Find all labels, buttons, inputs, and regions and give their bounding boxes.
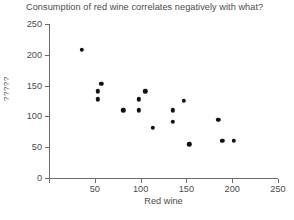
data-point (181, 99, 185, 103)
x-axis-label: Red wine (49, 196, 278, 206)
y-tick-mark (45, 116, 49, 117)
y-tick-label: 150 (27, 81, 42, 91)
x-axis-line (49, 178, 278, 179)
data-point (187, 142, 191, 146)
data-point (170, 108, 174, 112)
x-tick-label: 200 (225, 184, 240, 194)
x-tick-mark (232, 179, 233, 183)
y-tick-label: 250 (27, 19, 42, 29)
plot-area: 050100150200250 50100150200250 (49, 24, 278, 178)
x-tick-label: 100 (133, 184, 148, 194)
y-tick-mark (45, 24, 49, 25)
y-tick-label: 0 (37, 173, 42, 183)
data-point (220, 139, 224, 143)
data-point (95, 97, 99, 101)
x-tick-mark (49, 179, 50, 183)
data-point (216, 118, 220, 122)
x-tick-mark (278, 179, 279, 183)
scatter-plot-figure: Consumption of red wine correlates negat… (0, 0, 294, 220)
y-axis-label: ????? (2, 76, 11, 101)
x-tick-mark (141, 179, 142, 183)
data-point (150, 126, 154, 130)
x-tick-mark (186, 179, 187, 183)
y-tick-label: 100 (27, 111, 42, 121)
data-point (232, 139, 236, 143)
x-tick-mark (95, 179, 96, 183)
y-axis-line (49, 24, 50, 179)
y-tick-mark (45, 86, 49, 87)
data-point (137, 108, 141, 112)
chart-title: Consumption of red wine correlates negat… (26, 2, 263, 12)
y-tick-label: 200 (27, 50, 42, 60)
y-tick-mark (45, 55, 49, 56)
data-point (99, 82, 103, 86)
x-tick-label: 50 (90, 184, 100, 194)
data-point (137, 97, 141, 101)
data-point (143, 89, 147, 93)
y-tick-label: 50 (32, 142, 42, 152)
data-point (121, 108, 125, 112)
data-point (95, 89, 99, 93)
x-tick-label: 150 (179, 184, 194, 194)
data-point (80, 48, 84, 52)
x-tick-label: 250 (270, 184, 285, 194)
y-tick-mark (45, 147, 49, 148)
data-point (170, 120, 174, 124)
